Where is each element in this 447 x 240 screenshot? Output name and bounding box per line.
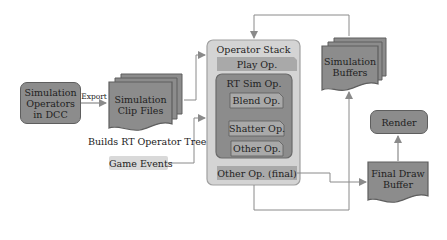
op-shatter: Shatter Op. [229, 123, 284, 134]
node-simulation-operators-dcc: Simulation Operators in DCC [20, 82, 81, 124]
operator-stack-title: Operator Stack [207, 44, 300, 55]
sim-buffers-label-line-1: Simulation [322, 56, 378, 67]
clip-files-label-line-2: Clip Files [109, 105, 172, 116]
final-draw-label-line-2: Buffer [368, 179, 428, 190]
node-final-draw-buffer: Final Draw Buffer [368, 168, 428, 190]
edge-label-builds-tree: Builds RT Operator Tree [88, 136, 188, 147]
node-simulation-buffers: Simulation Buffers [322, 56, 378, 78]
dcc-label-line-3: in DCC [33, 109, 67, 120]
op-other-final: Other Op. (final) [217, 168, 297, 179]
dcc-label-line-2: Operators [26, 98, 75, 109]
op-play: Play Op. [217, 59, 297, 70]
final-draw-label-line-1: Final Draw [368, 168, 428, 179]
edge-label-export: Export [81, 91, 107, 102]
op-other: Other Op. [231, 143, 283, 154]
sim-buffers-label-line-2: Buffers [322, 67, 378, 78]
node-simulation-clip-files: Simulation Clip Files [109, 94, 172, 116]
clip-files-label-line-1: Simulation [109, 94, 172, 105]
node-render: Render [370, 110, 428, 134]
op-blend: Blend Op. [230, 95, 283, 106]
dcc-label-line-1: Simulation [24, 87, 76, 98]
op-rt-sim-title: RT Sim Op. [216, 78, 292, 89]
render-label: Render [381, 117, 416, 128]
node-game-events: Game Events [109, 158, 168, 169]
